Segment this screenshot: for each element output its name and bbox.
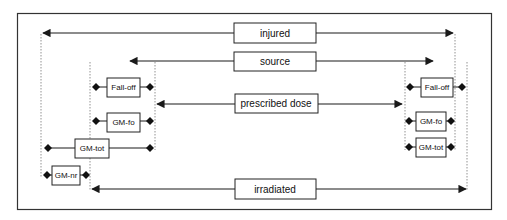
irradiated-range: irradiated <box>92 179 466 199</box>
diamond-icon <box>405 117 413 125</box>
injured-label: injured <box>260 28 290 39</box>
diamond-icon <box>82 171 90 179</box>
right-fall-off-label: Fall-off <box>425 83 450 92</box>
left-gm-tot-label: GM-tot <box>80 144 105 153</box>
diamond-icon <box>44 144 52 152</box>
right-gm-tot: GM-tot <box>405 138 455 157</box>
dose-volume-diagram: injured source prescribed dose irradiate… <box>0 0 507 220</box>
left-gm-nr-label: GM-nr <box>55 171 78 180</box>
left-fall-off-label: Fall-off <box>111 83 136 92</box>
prescribed-dose-label: prescribed dose <box>240 98 312 109</box>
diamond-icon <box>92 83 100 91</box>
diamond-icon <box>146 144 154 152</box>
diamond-icon <box>146 83 154 91</box>
diamond-icon <box>458 83 466 91</box>
right-gm-fo-label: GM-fo <box>420 117 443 126</box>
diamond-icon <box>447 117 455 125</box>
diamond-icon <box>406 83 414 91</box>
source-label: source <box>260 56 290 67</box>
diamond-icon <box>405 143 413 151</box>
diamond-icon <box>447 143 455 151</box>
left-gm-fo: GM-fo <box>92 113 154 132</box>
source-range: source <box>130 52 433 71</box>
right-gm-fo: GM-fo <box>405 112 455 131</box>
left-gm-fo-label: GM-fo <box>112 118 135 127</box>
left-fall-off: Fall-off <box>92 78 154 97</box>
diamond-icon <box>43 171 51 179</box>
irradiated-label: irradiated <box>254 184 296 195</box>
left-gm-nr: GM-nr <box>43 166 90 185</box>
diamond-icon <box>146 117 154 125</box>
injured-range: injured <box>43 23 453 43</box>
left-gm-tot: GM-tot <box>44 139 154 158</box>
prescribed-dose-range: prescribed dose <box>157 94 402 113</box>
right-fall-off: Fall-off <box>406 78 466 97</box>
right-gm-tot-label: GM-tot <box>419 143 444 152</box>
diamond-icon <box>92 117 100 125</box>
